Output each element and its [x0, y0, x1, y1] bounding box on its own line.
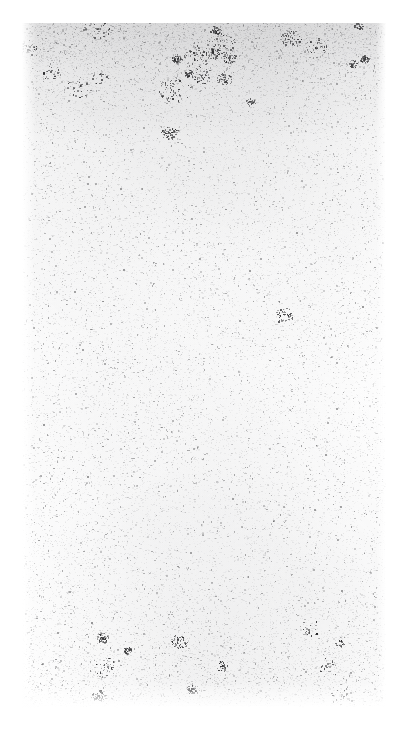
paper-surface	[22, 23, 386, 708]
page-edge-fade	[22, 23, 386, 708]
top-edge-grime-band	[22, 23, 386, 143]
dark-speckle-canvas	[22, 23, 386, 708]
fine-speckle-noise-layer	[22, 23, 386, 708]
fine-speckle-canvas	[22, 23, 386, 708]
mid-speckle-noise-layer	[22, 23, 386, 708]
paper-mottle-texture	[22, 23, 386, 708]
dark-speckle-cluster-layer	[22, 23, 386, 708]
scanned-page: Blank scanned page showing only paper gr…	[0, 0, 408, 729]
mid-speckle-canvas	[22, 23, 386, 708]
